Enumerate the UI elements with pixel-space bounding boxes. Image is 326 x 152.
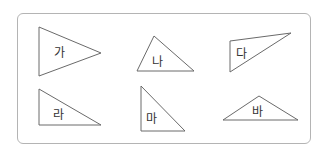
triangle-da: 다 [230, 33, 291, 72]
triangle-label-ra: 라 [53, 108, 64, 122]
triangle-label-ma: 마 [146, 112, 157, 126]
triangle-label-ba: 바 [252, 105, 263, 119]
triangles-canvas: 가 나 다 라 마 바 [0, 0, 326, 152]
triangle-label-na: 나 [152, 55, 163, 69]
triangle-ba: 바 [223, 96, 298, 120]
triangle-label-ga: 가 [54, 46, 65, 60]
triangle-ra: 라 [39, 89, 101, 125]
triangle-ga: 가 [39, 27, 101, 76]
triangle-label-da: 다 [236, 47, 247, 61]
triangle-na: 나 [137, 36, 194, 71]
triangle-ma: 마 [141, 86, 185, 131]
